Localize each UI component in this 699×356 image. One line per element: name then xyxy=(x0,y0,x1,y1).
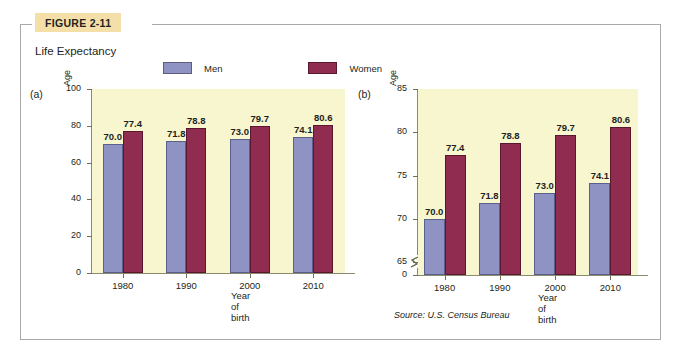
legend-item-men: Men xyxy=(163,62,222,74)
bar-women-1990 xyxy=(500,143,521,275)
bar-value-label: 77.4 xyxy=(116,118,150,129)
chart-legend: Men Women xyxy=(163,62,382,74)
x-axis-tick xyxy=(123,274,124,278)
x-axis-tick-label: 2010 xyxy=(590,282,630,293)
x-axis-tick xyxy=(313,274,314,278)
y-axis-tick xyxy=(87,199,92,200)
y-axis-tick-label: 100 xyxy=(55,83,81,93)
x-axis-tick xyxy=(500,276,501,280)
x-axis-tick xyxy=(610,276,611,280)
x-axis-title-a: Year of birth xyxy=(231,290,250,323)
figure-container: FIGURE 2-11 Life Expectancy Men Women (a… xyxy=(0,0,699,356)
bar-women-2000 xyxy=(555,135,576,275)
x-axis-tick-label: 1990 xyxy=(166,280,206,291)
bar-value-label: 78.8 xyxy=(493,130,527,141)
bar-women-1980 xyxy=(445,155,466,275)
x-axis-tick xyxy=(555,276,556,280)
figure-title: Life Expectancy xyxy=(35,45,116,57)
bar-value-label: 80.6 xyxy=(306,112,340,123)
panel-letter-b: (b) xyxy=(358,88,371,100)
y-axis-tick-label: 80 xyxy=(55,120,81,130)
bar-men-1990 xyxy=(166,141,186,273)
x-axis-tick xyxy=(445,276,446,280)
bar-women-2010 xyxy=(313,125,333,273)
panel-letter-a: (a) xyxy=(30,88,43,100)
x-axis-tick-label: 2000 xyxy=(230,280,270,291)
bar-women-2010 xyxy=(610,127,631,275)
bar-men-1980 xyxy=(424,219,445,275)
y-axis-tick xyxy=(87,273,92,274)
x-axis-tick-label: 2000 xyxy=(535,282,575,293)
bar-men-2010 xyxy=(589,183,610,275)
bar-value-label: 79.7 xyxy=(549,122,583,133)
y-axis-tick xyxy=(413,176,418,177)
legend-label-women: Women xyxy=(349,63,382,74)
bar-women-1980 xyxy=(123,131,143,273)
x-axis-title-b: Year of birth xyxy=(538,292,557,325)
y-axis-tick xyxy=(413,219,418,220)
bar-value-label: 80.6 xyxy=(604,114,638,125)
y-axis-tick xyxy=(413,262,418,263)
x-axis-tick-label: 1980 xyxy=(425,282,465,293)
y-axis-tick-label: 0 xyxy=(381,269,407,279)
x-axis-tick-label: 1980 xyxy=(103,280,143,291)
x-axis-tick xyxy=(250,274,251,278)
y-axis-tick xyxy=(87,236,92,237)
y-axis-tick xyxy=(87,89,92,90)
y-axis-tick-label: 0 xyxy=(55,267,81,277)
y-axis-tick xyxy=(413,132,418,133)
legend-item-women: Women xyxy=(308,62,382,74)
bar-men-2000 xyxy=(230,139,250,273)
y-axis-tick-label: 80 xyxy=(381,126,407,136)
bar-value-label: 77.4 xyxy=(438,142,472,153)
y-axis-tick xyxy=(413,275,418,276)
bar-women-1990 xyxy=(186,128,206,273)
y-axis-tick xyxy=(87,126,92,127)
legend-label-men: Men xyxy=(204,63,222,74)
bar-men-1990 xyxy=(479,203,500,275)
y-axis-tick xyxy=(87,163,92,164)
y-axis-tick-label: 65 xyxy=(381,256,407,266)
bar-men-2000 xyxy=(534,193,555,275)
bar-men-2010 xyxy=(293,137,313,273)
x-axis-tick-label: 2010 xyxy=(293,280,333,291)
bar-value-label: 79.7 xyxy=(243,113,277,124)
y-axis-tick-label: 20 xyxy=(55,230,81,240)
figure-number-tab: FIGURE 2-11 xyxy=(35,13,121,32)
y-axis-line-a xyxy=(91,89,92,274)
x-axis-line-a xyxy=(91,273,355,274)
x-axis-tick xyxy=(186,274,187,278)
x-axis-line-b xyxy=(417,275,648,276)
y-axis-tick-label: 60 xyxy=(55,157,81,167)
y-axis-tick xyxy=(413,89,418,90)
y-axis-tick-label: 85 xyxy=(381,83,407,93)
legend-swatch-men-icon xyxy=(163,62,192,74)
source-note: Source: U.S. Census Bureau xyxy=(394,310,510,320)
bar-value-label: 78.8 xyxy=(179,115,213,126)
legend-swatch-women-icon xyxy=(308,62,337,74)
y-axis-line-b xyxy=(417,89,418,276)
y-axis-tick-label: 40 xyxy=(55,193,81,203)
bar-men-1980 xyxy=(103,144,123,273)
figure-number-label: FIGURE 2-11 xyxy=(45,17,111,29)
x-axis-tick-label: 1990 xyxy=(480,282,520,293)
y-axis-tick-label: 75 xyxy=(381,170,407,180)
bar-women-2000 xyxy=(250,126,270,273)
y-axis-tick-label: 70 xyxy=(381,213,407,223)
